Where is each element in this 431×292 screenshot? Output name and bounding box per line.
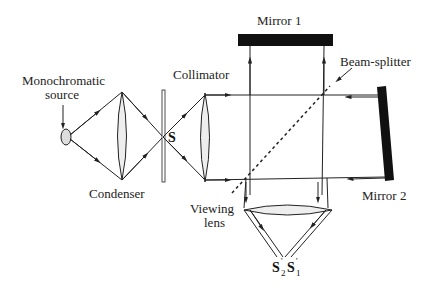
mirror-2: [377, 86, 394, 181]
collimated-beams: [205, 95, 385, 180]
label-source-line2: source: [45, 87, 79, 102]
michelson-diagram: Monochromatic source Condenser Collimato…: [0, 0, 431, 292]
label-mirror-2: Mirror 2: [362, 188, 406, 203]
label-source: Monochromatic: [22, 73, 105, 88]
source-icon: [61, 129, 71, 145]
label-condenser: Condenser: [89, 186, 145, 201]
label-slit: S: [168, 130, 176, 145]
beam-splitter: [232, 86, 330, 193]
condenser-rays: [122, 92, 163, 180]
label-viewing-lens-line2: lens: [204, 215, 225, 230]
label-image-1: S: [287, 260, 295, 275]
output-rays: [244, 210, 332, 257]
condenser-lens: [118, 92, 127, 180]
label-beam-splitter: Beam-splitter: [340, 54, 411, 69]
label-image-2-prime: ': [281, 256, 283, 266]
label-image-1-prime: ': [296, 256, 298, 266]
vertical-beams: [244, 46, 328, 208]
label-image-1-sub: 1: [296, 268, 301, 278]
beam-splitter-pointer-arrow: [338, 68, 352, 80]
label-image-2: S: [272, 260, 280, 275]
label-image-2-sub: 2: [281, 268, 286, 278]
viewing-lens: [244, 205, 332, 215]
label-mirror-1: Mirror 1: [257, 13, 301, 28]
collimator-lens: [201, 93, 210, 182]
label-viewing-lens: Viewing: [190, 201, 234, 216]
source-rays: [70, 92, 122, 180]
label-collimator: Collimator: [173, 67, 230, 82]
mirror-1: [238, 34, 333, 46]
